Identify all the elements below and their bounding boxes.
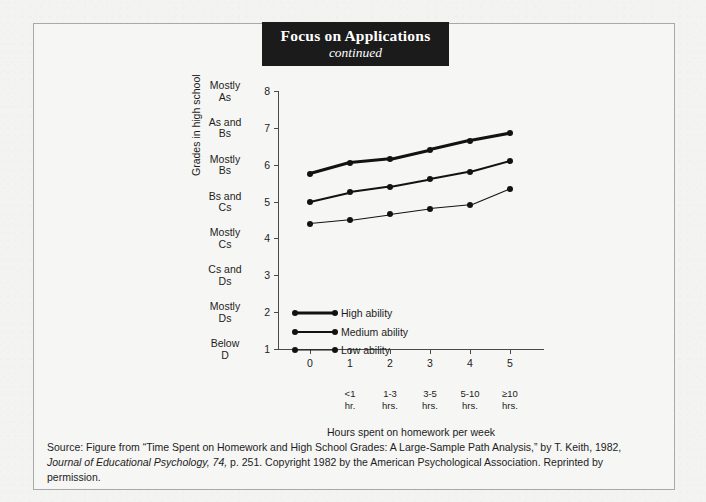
banner-subtitle: continued: [329, 45, 382, 61]
data-point: [507, 186, 513, 192]
data-point: [427, 147, 433, 153]
line-chart: Grades in high school BelowDMostlyDsCs a…: [196, 88, 556, 378]
x-axis-tick: [470, 349, 471, 354]
x-axis-tick-label: 0: [300, 357, 320, 369]
series-line-2: [470, 160, 511, 173]
y-axis-tick-label: 5: [256, 197, 270, 207]
legend-label: Low ability: [341, 344, 390, 356]
legend-item[interactable]: High ability: [292, 307, 392, 319]
y-axis-category-label: MostlyDs: [196, 301, 254, 324]
y-axis-tick-label: 4: [256, 233, 270, 243]
x-axis-sublabel: 5-10hrs.: [453, 388, 487, 411]
source-line-1: Source: Figure from “Time Spent on Homew…: [47, 441, 621, 453]
series-line-1: [310, 161, 351, 175]
data-point: [427, 206, 433, 212]
y-axis-tick: [274, 349, 278, 350]
source-journal: Journal of Educational Psychology, 74,: [47, 456, 227, 468]
y-axis-tick: [274, 202, 278, 203]
plot-area: Hours spent on homework per week 01<1hr.…: [278, 88, 544, 352]
y-axis-tick-label: 3: [256, 270, 270, 280]
x-axis-tick-label: 2: [380, 357, 400, 369]
x-axis-tick-label: 3: [420, 357, 440, 369]
y-axis-tick-label: 1: [256, 344, 270, 354]
y-axis-category-label: MostlyBs: [196, 154, 254, 177]
y-axis-tick: [274, 165, 278, 166]
data-point: [467, 202, 473, 208]
series-line-1: [390, 148, 431, 160]
y-axis-tick: [274, 312, 278, 313]
data-point: [507, 158, 513, 164]
y-axis-tick: [274, 238, 278, 239]
legend-line-swatch: [292, 328, 338, 336]
x-axis-title: Hours spent on homework per week: [278, 426, 544, 438]
series-line-3: [350, 214, 390, 221]
y-axis-category-label: Bs andCs: [196, 191, 254, 214]
legend-item[interactable]: Medium ability: [292, 326, 408, 338]
y-axis-tick-label: 7: [256, 123, 270, 133]
series-line-2: [310, 191, 350, 202]
series-line-1: [350, 158, 390, 165]
legend-label: Medium ability: [341, 326, 408, 338]
y-axis-category-label: Cs andDs: [196, 264, 254, 287]
x-axis-tick-label: 4: [460, 357, 480, 369]
data-point: [347, 217, 353, 223]
series-line-3: [310, 219, 350, 224]
y-axis-category-label: MostlyAs: [196, 80, 254, 103]
y-axis-tick: [274, 128, 278, 129]
x-axis-tick-label: 5: [500, 357, 520, 369]
y-axis-line: [278, 91, 279, 349]
x-axis-tick: [430, 349, 431, 354]
banner-title: Focus on Applications: [281, 28, 431, 44]
data-point: [307, 221, 313, 227]
series-line-2: [390, 178, 430, 187]
y-axis-tick: [274, 91, 278, 92]
data-point: [427, 176, 433, 182]
y-axis-category-label: MostlyCs: [196, 227, 254, 250]
x-axis-sublabel: <1hr.: [333, 388, 367, 411]
x-axis-sublabel: 3-5hrs.: [413, 388, 447, 411]
data-point: [467, 169, 473, 175]
y-axis-tick-label: 6: [256, 160, 270, 170]
x-axis-tick: [510, 349, 511, 354]
series-line-3: [390, 208, 430, 215]
source-citation: Source: Figure from “Time Spent on Homew…: [47, 440, 657, 485]
legend-item[interactable]: Low ability: [292, 344, 390, 356]
data-point: [347, 189, 353, 195]
series-line-3: [470, 188, 510, 206]
legend-line-swatch: [292, 309, 338, 317]
y-axis-category-label: As andBs: [196, 117, 254, 140]
series-line-1: [470, 132, 511, 142]
figure-page: Focus on Applications continued Grades i…: [0, 0, 706, 502]
series-line-3: [430, 205, 470, 210]
y-axis-tick-label: 2: [256, 307, 270, 317]
series-line-1: [430, 139, 471, 151]
legend-label: High ability: [341, 307, 392, 319]
x-axis-tick-label: 1: [340, 357, 360, 369]
y-axis-category-label: BelowD: [196, 338, 254, 361]
x-axis-sublabel: ≥10hrs.: [493, 388, 527, 411]
data-point: [387, 156, 393, 162]
legend-line-swatch: [292, 346, 338, 354]
data-point: [307, 171, 313, 177]
data-point: [507, 130, 513, 136]
series-line-2: [430, 171, 470, 180]
series-line-2: [350, 186, 390, 194]
y-axis-tick: [274, 275, 278, 276]
data-point: [387, 184, 393, 190]
x-axis-sublabel: 1-3hrs.: [373, 388, 407, 411]
data-point: [307, 199, 313, 205]
data-point: [387, 211, 393, 217]
data-point: [467, 138, 473, 144]
data-point: [347, 160, 353, 166]
y-axis-tick-label: 8: [256, 86, 270, 96]
figure-banner: Focus on Applications continued: [262, 22, 449, 66]
x-axis-tick: [390, 349, 391, 354]
